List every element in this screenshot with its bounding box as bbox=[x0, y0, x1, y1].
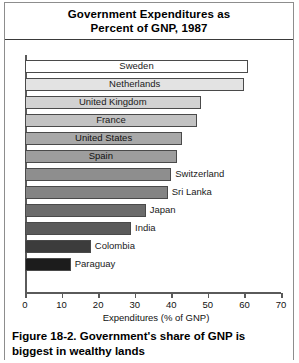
bar bbox=[25, 168, 171, 181]
bar-label: Sri Lanka bbox=[172, 187, 212, 197]
x-axis-tick-label: 50 bbox=[203, 299, 214, 310]
bar-row: Sri Lanka bbox=[25, 183, 287, 201]
bar-series: SwedenNetherlandsUnited KingdomFranceUni… bbox=[25, 57, 287, 291]
bar-row: Sweden bbox=[25, 57, 287, 75]
bar: Spain bbox=[25, 150, 177, 163]
bar-label: Netherlands bbox=[109, 79, 160, 89]
bar-label: India bbox=[135, 223, 156, 233]
bar-label: Colombia bbox=[95, 241, 135, 251]
x-axis-tick bbox=[62, 293, 64, 298]
bar: Netherlands bbox=[25, 78, 244, 91]
figure-page: Government Expenditures as Percent of GN… bbox=[0, 0, 299, 363]
x-axis-tick bbox=[135, 293, 137, 298]
bar: France bbox=[25, 114, 197, 127]
x-axis-tick bbox=[171, 293, 173, 298]
x-axis-tick-label: 0 bbox=[22, 299, 27, 310]
x-axis-tick-label: 60 bbox=[239, 299, 250, 310]
bar-row: Switzerland bbox=[25, 165, 287, 183]
bar bbox=[25, 186, 168, 199]
bar-row: United States bbox=[25, 129, 287, 147]
bar-row: Japan bbox=[25, 201, 287, 219]
x-axis-tick-label: 10 bbox=[56, 299, 67, 310]
x-axis-tick bbox=[244, 293, 246, 298]
bar-chart: SwedenNetherlandsUnited KingdomFranceUni… bbox=[5, 41, 293, 321]
bar bbox=[25, 204, 146, 217]
bar-label: United Kingdom bbox=[79, 97, 147, 107]
bar-row: Colombia bbox=[25, 237, 287, 255]
x-axis-tick-label: 40 bbox=[166, 299, 177, 310]
x-axis-tick bbox=[281, 293, 283, 298]
bar bbox=[25, 240, 91, 253]
x-axis-tick-label: 70 bbox=[276, 299, 287, 310]
x-axis-tick-label: 20 bbox=[93, 299, 104, 310]
bar: United States bbox=[25, 132, 182, 145]
bar-label: Sweden bbox=[119, 61, 153, 71]
bar-row: Spain bbox=[25, 147, 287, 165]
bar-row: Netherlands bbox=[25, 75, 287, 93]
bar-label: Paraguay bbox=[75, 259, 116, 269]
x-axis-tick-label: 30 bbox=[129, 299, 140, 310]
bar-label: Japan bbox=[150, 205, 176, 215]
bar: United Kingdom bbox=[25, 96, 201, 109]
bar bbox=[25, 222, 131, 235]
bar-row: France bbox=[25, 111, 287, 129]
chart-title-line-1: Government Expenditures as bbox=[68, 7, 230, 21]
figure-caption: Figure 18-2. Government's share of GNP i… bbox=[12, 329, 290, 358]
plot-area: SwedenNetherlandsUnited KingdomFranceUni… bbox=[5, 41, 293, 293]
chart-title-line-2: Percent of GNP, 1987 bbox=[91, 21, 208, 35]
bar-label: United States bbox=[75, 133, 132, 143]
bar-label: Switzerland bbox=[175, 169, 224, 179]
x-axis-tick bbox=[208, 293, 210, 298]
bar-label: Spain bbox=[89, 151, 113, 161]
x-axis-tick bbox=[98, 293, 100, 298]
bar-row: United Kingdom bbox=[25, 93, 287, 111]
bar-row: India bbox=[25, 219, 287, 237]
bar bbox=[25, 258, 71, 271]
bar-row: Paraguay bbox=[25, 255, 287, 273]
bar: Sweden bbox=[25, 60, 248, 73]
chart-title-box: Government Expenditures as Percent of GN… bbox=[5, 3, 293, 40]
figure-caption-line-2: biggest in wealthy lands bbox=[12, 344, 290, 359]
figure-caption-line-1: Figure 18-2. Government's share of GNP i… bbox=[12, 329, 290, 344]
page-border-right bbox=[293, 2, 294, 360]
x-axis-title: Expenditures (% of GNP) bbox=[25, 312, 287, 323]
bar-label: France bbox=[96, 115, 126, 125]
x-axis-tick bbox=[25, 293, 27, 298]
x-axis-tick-labels: 010203040506070 bbox=[5, 299, 293, 311]
